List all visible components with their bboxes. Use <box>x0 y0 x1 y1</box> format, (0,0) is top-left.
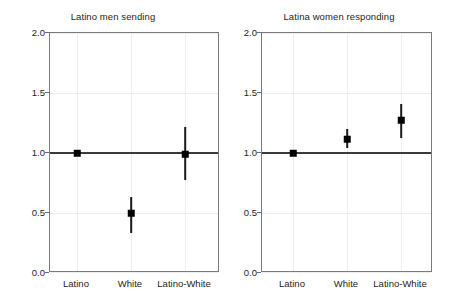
panel-latina-women-responding: Latina women responding 2.0 1.5 1.0 0.5 … <box>226 0 452 307</box>
panel-title-right: Latina women responding <box>226 11 452 22</box>
panel-title-left: Latino men sending <box>0 11 226 22</box>
x-tick-label-white: White <box>118 278 142 289</box>
gridline-horizontal <box>50 93 218 94</box>
data-point-marker-white <box>344 136 351 143</box>
data-point-marker-latino-white <box>398 117 405 124</box>
figure-forest-plot: Latino men sending 2.0 1.5 1.0 0.5 0.0 <box>0 0 452 307</box>
data-point-marker-latino <box>74 150 81 157</box>
reference-line-right <box>262 152 431 154</box>
x-tick-label-latino-white: Latino-White <box>157 278 210 289</box>
x-tick-label-latino: Latino <box>63 278 89 289</box>
panel-latino-men-sending: Latino men sending 2.0 1.5 1.0 0.5 0.0 <box>0 0 226 307</box>
y-tick-mark <box>45 272 49 273</box>
x-tick-label-latino: Latino <box>279 278 305 289</box>
gridline-horizontal <box>262 272 431 273</box>
y-tick-mark <box>257 272 261 273</box>
data-point-marker-latino <box>290 150 297 157</box>
gridline-horizontal <box>50 33 218 34</box>
gridline-horizontal <box>50 272 218 273</box>
plot-area-left <box>49 32 219 272</box>
data-point-marker-white <box>128 210 135 217</box>
plot-area-right <box>261 32 432 272</box>
x-tick-label-white: White <box>334 278 358 289</box>
data-point-marker-latino-white <box>182 151 189 158</box>
x-tick-label-latino-white: Latino-White <box>373 278 426 289</box>
